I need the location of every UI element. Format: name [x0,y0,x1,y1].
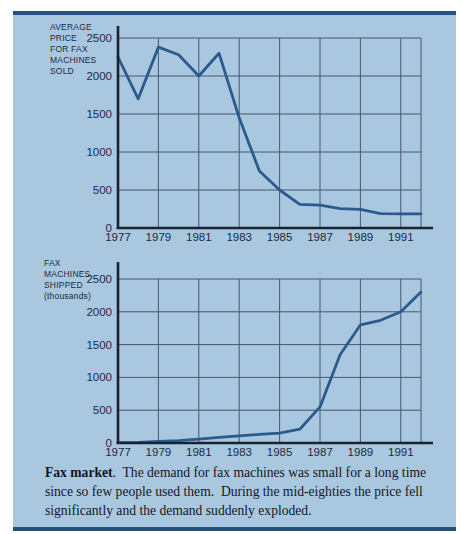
y-axis-title-price: AVERAGE PRICE FOR FAX MACHINES SOLD [50,22,96,77]
figure-caption: Fax market. The demand for fax machines … [45,463,449,520]
y-axis-title-shipped: FAX MACHINES SHIPPED (thousands) [44,258,91,302]
figure: AVERAGE PRICE FOR FAX MACHINES SOLD 0500… [0,0,461,534]
y-axis-title-line: SOLD [50,66,96,77]
y-axis-title-line: PRICE [50,33,96,44]
y-axis-title-line: MACHINES [44,269,91,280]
caption-lead: Fax market [45,465,113,480]
y-axis-title-line: MACHINES [50,55,96,66]
y-axis-title-line: FOR FAX [50,44,96,55]
y-axis-title-line: (thousands) [44,291,91,302]
y-axis-title-line: AVERAGE [50,22,96,33]
y-axis-title-line: FAX [44,258,91,269]
y-axis-title-line: SHIPPED [44,280,91,291]
